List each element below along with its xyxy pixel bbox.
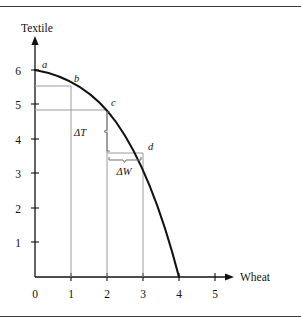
- delta-w-annotation: ΔW: [109, 157, 141, 177]
- x-tick-label-5: 5: [212, 288, 218, 300]
- delta-w-label: ΔW: [116, 166, 133, 177]
- point-label-d: d: [148, 141, 154, 152]
- x-tick-label-4: 4: [176, 288, 182, 300]
- curve-point-labels: a b c d: [42, 59, 154, 152]
- y-tick-label-1: 1: [15, 237, 21, 249]
- x-tick-label-1: 1: [68, 288, 74, 300]
- point-label-c: c: [111, 97, 116, 108]
- x-axis: [35, 273, 234, 280]
- y-tick-label-2: 2: [15, 203, 21, 215]
- y-tick-label-4: 4: [15, 134, 21, 146]
- y-axis: [31, 36, 38, 277]
- delta-t-label: ΔT: [73, 127, 87, 138]
- figure-container: Textile Wheat 6 5 4 3 2 1: [0, 0, 301, 321]
- point-label-b: b: [74, 73, 79, 84]
- bottom-divider-rule: [0, 316, 301, 317]
- x-axis-title: Wheat: [240, 271, 271, 283]
- delta-t-annotation: ΔT: [73, 112, 110, 151]
- x-tick-label-3: 3: [140, 288, 146, 300]
- x-axis-arrow-icon: [225, 273, 234, 280]
- y-axis-tick-labels: 6 5 4 3 2 1: [15, 65, 21, 249]
- point-label-a: a: [42, 59, 47, 70]
- y-axis-arrow-icon: [31, 36, 38, 45]
- y-axis-title: Textile: [21, 22, 53, 34]
- ppf-chart: Textile Wheat 6 5 4 3 2 1: [0, 0, 301, 321]
- y-tick-label-5: 5: [15, 99, 21, 111]
- x-tick-label-2: 2: [104, 288, 110, 300]
- y-tick-label-3: 3: [15, 168, 21, 180]
- y-tick-label-6: 6: [15, 65, 21, 77]
- x-tick-label-0: 0: [32, 288, 38, 300]
- x-axis-tick-labels: 0 1 2 3 4 5: [32, 288, 218, 300]
- horizontal-guide-lines: [35, 86, 143, 153]
